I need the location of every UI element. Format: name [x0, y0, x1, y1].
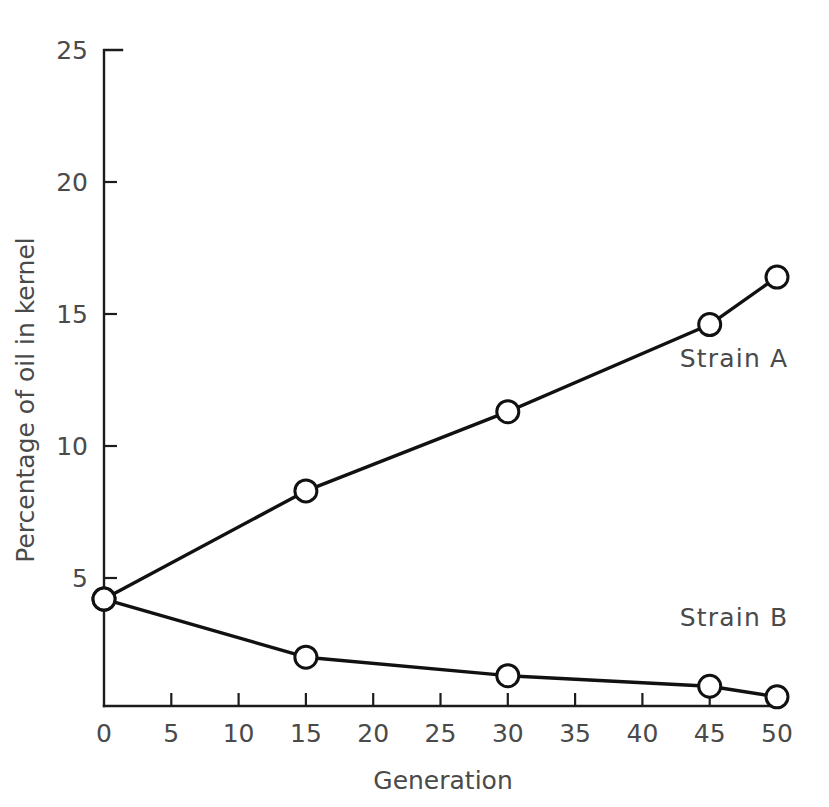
- x-tick-label: 40: [626, 719, 658, 748]
- data-point-marker: [93, 588, 115, 610]
- x-tick-label: 50: [761, 719, 793, 748]
- x-axis-tick-labels: 05101520253035404550: [96, 719, 793, 748]
- data-point-marker: [295, 646, 317, 668]
- y-tick-label: 25: [56, 36, 88, 65]
- data-point-marker: [699, 675, 721, 697]
- data-point-marker: [497, 401, 519, 423]
- y-axis-title: Percentage of oil in kernel: [11, 237, 40, 562]
- x-tick-label: 45: [694, 719, 726, 748]
- data-point-marker: [295, 480, 317, 502]
- x-tick-label: 0: [96, 719, 112, 748]
- data-point-marker: [699, 314, 721, 336]
- series-line: [104, 277, 777, 599]
- data-point-marker: [766, 686, 788, 708]
- x-tick-label: 35: [559, 719, 591, 748]
- y-axis-tick-labels: 510152025: [56, 36, 88, 593]
- data-series-group: [93, 266, 788, 708]
- series-label-strain-b: Strain B: [680, 603, 789, 632]
- y-tick-label: 10: [56, 432, 88, 461]
- x-tick-label: 30: [492, 719, 524, 748]
- y-tick-label: 5: [72, 564, 88, 593]
- series-a: [93, 266, 788, 610]
- series-line: [104, 599, 777, 697]
- x-tick-label: 5: [163, 719, 179, 748]
- x-tick-label: 20: [357, 719, 389, 748]
- x-tick-label: 15: [290, 719, 322, 748]
- x-axis-title: Generation: [373, 766, 512, 795]
- chart-figure: 510152025 05101520253035404550 Strain AS…: [0, 0, 829, 807]
- x-axis-ticks: [171, 693, 777, 706]
- x-tick-label: 10: [223, 719, 255, 748]
- line-chart-plot: 510152025 05101520253035404550 Strain AS…: [0, 0, 829, 807]
- x-axis: 05101520253035404550: [96, 693, 793, 748]
- data-point-marker: [766, 266, 788, 288]
- series-labels-group: Strain AStrain B: [680, 344, 789, 632]
- data-point-marker: [497, 665, 519, 687]
- x-tick-label: 25: [425, 719, 457, 748]
- y-tick-label: 15: [56, 300, 88, 329]
- y-axis-ticks: [104, 182, 117, 578]
- y-tick-label: 20: [56, 168, 88, 197]
- series-label-strain-a: Strain A: [680, 344, 789, 373]
